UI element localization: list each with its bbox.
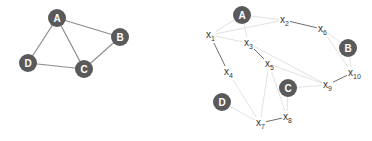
variable-x2: x2 [279,14,290,28]
left-node-A: A [48,9,66,27]
node-label: D [24,58,31,69]
node-label: A [238,10,245,21]
right-node-A: A [233,6,251,24]
variable-x9: x9 [322,79,333,93]
variable-x8: x8 [282,111,293,125]
variable-x3: x3 [243,37,254,51]
diagram-canvas: ABCD ABCD x1x2x3x4x5x6x7x8x9x10 [0,0,372,141]
right-edge-x5-x9 [269,64,327,85]
variable-x7: x7 [255,117,266,131]
variable-x1: x1 [205,29,216,43]
variable-x4: x4 [223,66,234,80]
right-node-B: B [339,39,357,57]
right-edge-x5-x7 [260,64,269,123]
right-edge-x3-x9 [248,43,327,85]
variable-x6: x6 [317,23,328,37]
node-label: D [218,97,225,108]
left-edge-A-B [57,18,120,37]
left-node-B: B [111,28,129,46]
node-label: C [80,64,87,75]
right-node-D: D [213,93,231,111]
node-label: C [284,83,291,94]
variable-x10: x10 [347,67,361,81]
variable-x5: x5 [264,58,275,72]
left-graph-edges [28,18,120,69]
right-node-C: C [279,79,297,97]
node-label: A [53,13,60,24]
left-node-D: D [19,54,37,72]
left-node-C: C [75,60,93,78]
node-label: B [116,32,123,43]
node-label: B [344,43,351,54]
